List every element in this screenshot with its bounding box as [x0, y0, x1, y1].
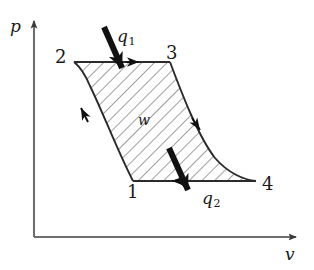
- heat-out-label-q2: q2: [202, 190, 220, 207]
- heat-in-subscript: 1: [128, 35, 135, 48]
- heat-out-symbol: q: [202, 188, 213, 208]
- pv-diagram-figure: p v 2 3 1 4 q1 q2 w: [0, 0, 314, 270]
- state-label-4: 4: [262, 175, 273, 193]
- cycle-area-hatched: [74, 62, 256, 181]
- state-label-2: 2: [55, 48, 66, 66]
- heat-in-label-q1: q1: [117, 28, 135, 45]
- work-label-w: w: [138, 113, 150, 127]
- diagram-canvas: [0, 0, 314, 270]
- y-axis-label: p: [10, 18, 21, 35]
- state-label-1: 1: [127, 183, 138, 201]
- state-label-3: 3: [166, 44, 177, 62]
- direction-arrow-1-to-2: [81, 108, 88, 122]
- heat-out-subscript: 2: [213, 197, 220, 210]
- x-axis-label: v: [285, 246, 295, 263]
- heat-in-symbol: q: [117, 26, 128, 46]
